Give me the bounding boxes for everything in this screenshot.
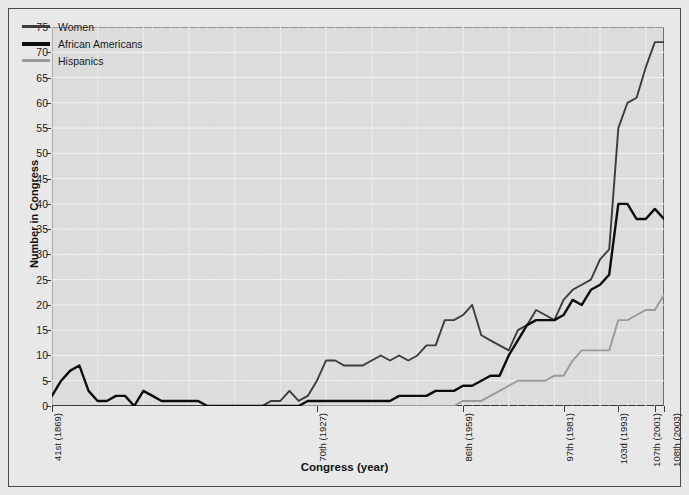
x-axis-tick-marks [52, 406, 664, 413]
y-tick-mark [46, 78, 51, 79]
plot-area-wrapper [52, 27, 664, 406]
y-tick-mark [46, 406, 51, 407]
y-tick-mark [46, 153, 51, 154]
y-tick-mark [46, 381, 51, 382]
legend-label: African Americans [58, 38, 143, 50]
chart-legend: WomenAfrican AmericansHispanics [22, 18, 212, 69]
y-tick-mark [46, 229, 51, 230]
y-axis-title: Number in Congress [28, 114, 40, 314]
legend-label: Women [58, 21, 94, 33]
y-tick-mark [46, 128, 51, 129]
chart-lines [52, 27, 664, 406]
y-tick-mark [46, 280, 51, 281]
x-tick-mark [664, 406, 665, 412]
chart-figure: 051015202530354045505560657075 Number in… [0, 0, 689, 495]
x-tick-mark [564, 406, 565, 412]
y-tick-mark [46, 204, 51, 205]
y-tick-mark [46, 179, 51, 180]
y-tick-mark [46, 103, 51, 104]
legend-swatch [22, 59, 50, 62]
y-tick-mark [46, 355, 51, 356]
legend-item: Hispanics [22, 52, 212, 69]
x-axis-tick-labels: 41st (1869)70th (1927)86th (1959)97th (1… [52, 413, 664, 465]
x-tick-mark [618, 406, 619, 412]
x-tick-mark [317, 406, 318, 412]
x-axis-title: Congress (year) [0, 461, 689, 473]
y-tick-mark [46, 330, 51, 331]
legend-label: Hispanics [58, 55, 104, 67]
y-tick-mark [46, 254, 51, 255]
x-tick-mark [52, 406, 53, 412]
x-tick-mark [655, 406, 656, 412]
legend-item: African Americans [22, 35, 212, 52]
legend-swatch [22, 42, 50, 46]
x-tick-mark [463, 406, 464, 412]
legend-swatch [22, 25, 50, 28]
y-tick-mark [46, 305, 51, 306]
legend-item: Women [22, 18, 212, 35]
y-axis-title-holder: Number in Congress [12, 40, 32, 380]
